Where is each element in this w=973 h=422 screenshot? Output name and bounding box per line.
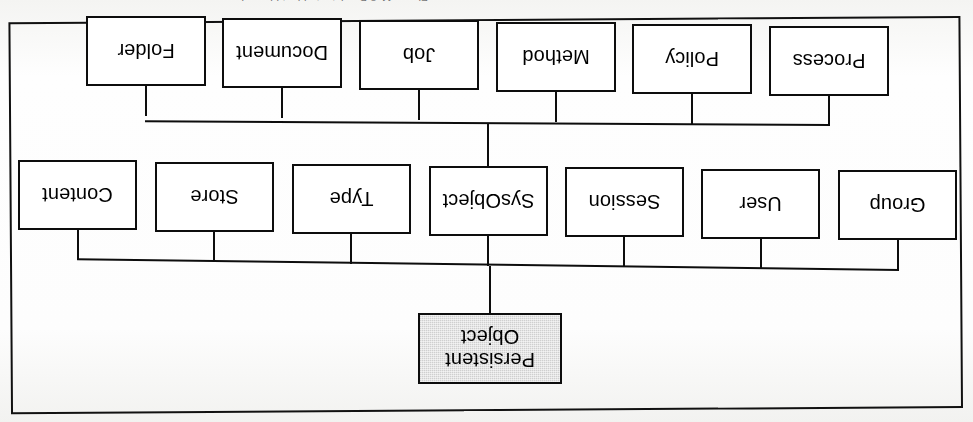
node-label: Group [869,194,925,216]
node-job[interactable]: Job [359,20,479,90]
edge-policy-riser [691,92,693,124]
node-label: Folder [117,40,174,62]
edge-method-riser [555,90,557,122]
edge-folder-riser [145,84,147,116]
node-persistent-object[interactable]: Persistent Object [418,313,562,384]
edge-user-riser [760,237,762,269]
edge-type-riser [350,232,352,264]
node-content[interactable]: Content [18,160,137,230]
node-label: SysObject [442,190,534,212]
node-type[interactable]: Type [292,164,411,234]
node-policy[interactable]: Policy [632,24,752,94]
node-process[interactable]: Process [769,26,889,96]
edge-document-riser [281,86,283,118]
node-label-wrap: Persistent Object [445,326,535,371]
node-folder[interactable]: Folder [86,16,206,86]
edge-session-riser [623,235,625,267]
node-document[interactable]: Document [222,18,342,88]
node-label: Document [236,42,328,64]
rotated-figure-canvas: Process Policy Method Job Document Folde… [0,0,973,422]
node-label: Job [403,44,436,66]
node-label-line2: Object [445,326,535,348]
edge-sysobject-stem [487,124,489,170]
node-label: Process [793,50,866,72]
node-session[interactable]: Session [565,167,684,237]
node-label-line1: Persistent [445,349,535,371]
node-sysobject[interactable]: SysObject [429,166,548,236]
edge-group-riser [897,238,899,270]
node-group[interactable]: Group [838,170,957,240]
edge-sysobject-riser [487,234,489,266]
node-label: Content [42,184,113,206]
node-method[interactable]: Method [496,22,616,92]
node-label: Method [522,46,589,68]
node-store[interactable]: Store [155,162,274,232]
edge-process-riser [828,94,830,126]
edge-content-riser [77,228,79,260]
figure-page: Figure 11-3 Persistent object hierarchy … [0,0,973,422]
node-user[interactable]: User [701,169,820,239]
node-label: Session [589,191,661,213]
node-label: User [739,193,782,215]
edge-store-riser [213,230,215,262]
node-label: Store [190,186,238,208]
edge-root-stem [489,266,491,314]
edge-job-riser [418,88,420,120]
node-label: Type [330,188,374,210]
node-label: Policy [665,48,719,70]
